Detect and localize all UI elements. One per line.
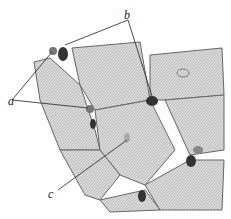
fiber — [150, 48, 224, 100]
fiber — [165, 95, 224, 155]
illustration — [0, 0, 231, 219]
label-c: c — [48, 187, 53, 202]
label-a: a — [8, 94, 14, 109]
label-b: b — [124, 8, 130, 23]
